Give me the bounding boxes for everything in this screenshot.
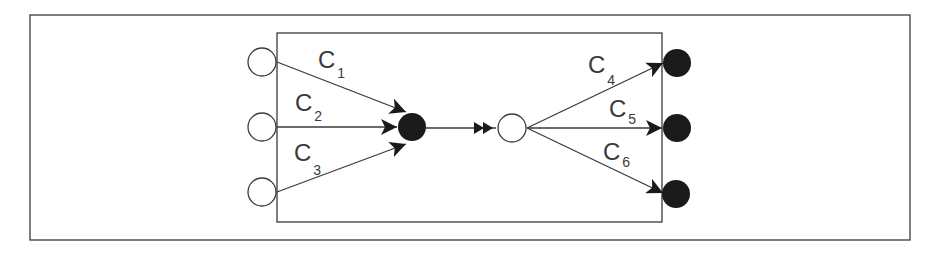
double-arrow-icon: [474, 122, 493, 134]
hub-in-node: [398, 113, 426, 141]
edge-label-c1: C1: [318, 46, 345, 81]
output-node-2: [663, 114, 691, 142]
edge-label-c5: C5: [609, 95, 636, 127]
input-node-1: [248, 48, 276, 76]
edge-label-c3: C3: [294, 139, 321, 178]
output-node-1: [663, 49, 691, 77]
edge-c6: [527, 128, 663, 193]
input-node-2: [248, 113, 276, 141]
output-node-3: [662, 180, 690, 208]
hub-out-node: [498, 114, 526, 142]
input-node-3: [248, 178, 276, 206]
edge-label-c4: C4: [588, 51, 615, 88]
edge-label-c6: C6: [603, 138, 630, 170]
diagram-canvas: C1 C2 C3 C4 C5 C6: [0, 0, 945, 254]
edge-label-c2: C2: [295, 89, 322, 124]
